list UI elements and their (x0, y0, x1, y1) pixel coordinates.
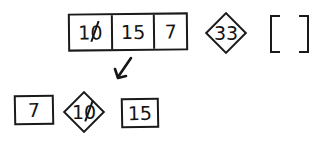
array-cell-value: 7 (165, 22, 177, 41)
pivot-value: 10 (61, 89, 107, 135)
pivot-value: 33 (203, 10, 249, 56)
left-value: 7 (28, 100, 40, 119)
left-partition-box: 7 (14, 95, 55, 126)
right-partition-box: 15 (121, 98, 160, 129)
arrow-down-left-icon (112, 56, 134, 82)
input-array: 10 15 7 (68, 12, 188, 51)
pivot-diamond-bottom: 10 (61, 89, 107, 135)
array-cell-0: 10 (70, 15, 113, 49)
array-cell-value: 10 (78, 23, 102, 42)
right-value: 15 (128, 103, 153, 122)
open-bracket (270, 15, 280, 53)
pivot-value-text: 10 (72, 103, 96, 122)
array-cell-1: 15 (113, 15, 156, 49)
pivot-diamond-top: 33 (203, 10, 249, 56)
array-cell-value: 15 (121, 22, 145, 41)
array-cell-2: 7 (155, 14, 186, 48)
close-bracket (299, 15, 309, 53)
